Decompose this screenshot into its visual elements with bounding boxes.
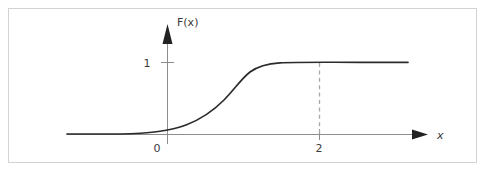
x-tick-label-2: 2 — [316, 142, 323, 155]
y-axis-label: F(x) — [177, 16, 198, 29]
y-tick-label-1: 1 — [144, 57, 151, 70]
y-axis-arrow-icon — [163, 24, 173, 44]
x-axis-arrow-icon — [412, 130, 428, 140]
figure-root: F(x) x 1 0 2 — [0, 0, 488, 172]
origin-label: 0 — [154, 142, 161, 155]
cdf-plot: F(x) x 1 0 2 — [0, 0, 488, 172]
x-axis-label: x — [436, 129, 444, 142]
cdf-curve — [67, 62, 408, 134]
